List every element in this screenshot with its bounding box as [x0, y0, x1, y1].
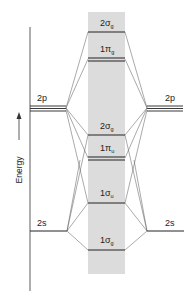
left-2p-label: 2p [37, 93, 47, 103]
energy-arrow-icon [17, 112, 22, 119]
mo-energy-diagram: Energy 2p 2s 2p 2s 2σg 1πg 2σg 1πu [0, 0, 191, 304]
right-2p-level [147, 106, 183, 111]
right-2p-label: 2p [165, 93, 175, 103]
right-2s-label: 2s [165, 218, 175, 228]
energy-label: Energy [14, 156, 24, 184]
left-2p-level [30, 106, 66, 111]
right-2p-connectors [125, 32, 147, 203]
left-2s-label: 2s [37, 218, 47, 228]
right-2s-connectors [125, 135, 147, 250]
left-2s-connectors [67, 135, 88, 250]
energy-axis-label-group: Energy [14, 112, 24, 183]
